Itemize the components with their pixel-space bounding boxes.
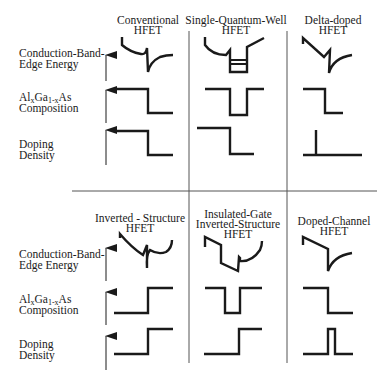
panel-title-single-quantum-well: Single-Quantum-Well HFET [182,15,290,35]
row-label-doping-top: Doping Density [19,139,55,161]
label-line: Edge Energy [19,59,105,70]
conduction-band-curve [303,38,352,73]
title-line: HFET [190,229,286,239]
row-label-conduction-band-top: Conduction-Band- Edge Energy [19,48,105,70]
doping-pulse [303,329,353,354]
title-line: HFET [92,223,188,233]
title-line: HFET [298,25,368,35]
composition-step [114,288,173,313]
label-line: Density [19,350,55,361]
doping-step [114,131,173,155]
composition-step [303,89,343,113]
panel-title-doped-channel: Doped-Channel HFET [294,216,374,236]
panel-delta-doped-plots [303,38,362,155]
quantum-well-level [230,60,247,64]
title-line: HFET [182,25,290,35]
doping-delta-spike [303,130,362,155]
title-line: HFET [294,226,374,236]
row-label-composition-top: AlxGa1-xAs Composition [19,92,78,114]
composition-step [205,288,262,313]
conduction-band-curve [205,37,264,72]
panel-title-inverted-structure: Inverted - Structure HFET [92,213,188,233]
row-label-composition-bottom: AlxGa1-xAs Composition [19,294,78,316]
label-line: Edge Energy [19,260,105,271]
panel-title-conventional: Conventional HFET [110,15,186,35]
title-line: HFET [110,25,186,35]
composition-step [205,89,264,115]
composition-step [303,288,353,313]
panel-inverted-structure-plots [114,234,173,354]
doping-step [197,128,254,154]
conduction-band-curve [205,237,262,271]
label-line: Density [19,150,55,161]
panel-insulated-gate-plots [204,237,262,354]
doping-step [114,329,173,354]
panel-title-delta-doped: Delta-doped HFET [298,15,368,35]
panel-single-quantum-well-plots [197,37,264,154]
label-line: Composition [19,103,78,114]
conduction-band-curve [122,37,173,72]
panel-conventional-plots [114,37,173,155]
label-line: Composition [19,305,78,316]
doping-step [204,329,262,354]
row-label-conduction-band-bottom: Conduction-Band- Edge Energy [19,249,105,271]
conduction-band-curve [120,234,172,268]
composition-step [114,89,173,113]
panel-title-insulated-gate: Insulated-Gate Inverted-Structure HFET [190,209,286,239]
panel-doped-channel-plots [303,237,353,354]
row-label-doping-bottom: Doping Density [19,339,55,361]
conduction-band-curve [303,237,352,271]
